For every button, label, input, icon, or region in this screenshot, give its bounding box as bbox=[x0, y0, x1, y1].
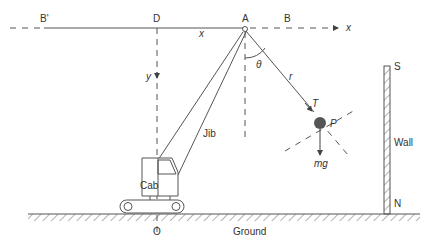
label-s: S bbox=[394, 62, 401, 72]
label-b: B bbox=[284, 14, 291, 24]
jib bbox=[158, 32, 246, 175]
label-ground: Ground bbox=[233, 227, 266, 237]
label-d: D bbox=[153, 14, 160, 24]
label-mg: mg bbox=[314, 159, 328, 169]
wall bbox=[384, 66, 390, 214]
label-wall: Wall bbox=[394, 138, 413, 148]
label-a: A bbox=[242, 14, 249, 24]
label-x-axis: x bbox=[346, 23, 351, 33]
tension-arrow bbox=[305, 103, 312, 111]
mass-p bbox=[314, 117, 326, 129]
pivot-a bbox=[243, 27, 248, 32]
label-tension: T bbox=[312, 99, 318, 109]
label-n: N bbox=[394, 199, 401, 209]
label-r: r bbox=[289, 72, 292, 82]
label-p: P bbox=[330, 119, 337, 129]
cable-r bbox=[246, 31, 314, 112]
label-theta: θ bbox=[256, 60, 261, 70]
diagram-canvas bbox=[0, 0, 437, 247]
label-cab: Cab bbox=[140, 181, 158, 191]
label-y: y bbox=[146, 72, 151, 82]
label-b-prime: B' bbox=[40, 14, 49, 24]
label-jib: Jib bbox=[203, 129, 216, 139]
label-o: O bbox=[153, 227, 161, 237]
ground bbox=[28, 214, 420, 221]
crane-diagram: B' D A B x x θ r T P mg y Jib Cab Wall S… bbox=[0, 0, 437, 247]
wheel-icon bbox=[124, 203, 132, 211]
wheel-icon bbox=[172, 203, 180, 211]
label-x-distance: x bbox=[199, 29, 204, 39]
